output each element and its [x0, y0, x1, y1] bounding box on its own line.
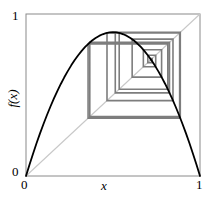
- plot-canvas: [0, 0, 209, 202]
- logistic-curve: [26, 32, 200, 176]
- x-axis-tick-label-1: 1: [196, 178, 203, 191]
- logistic-curve-group: [26, 32, 200, 176]
- cobweb-diagram-figure: 1 0 0 1 x f(x): [0, 0, 209, 202]
- y-axis-tick-label-1: 1: [12, 9, 19, 22]
- identity-line-group: [26, 14, 200, 176]
- y-axis-label: f(x): [6, 77, 19, 121]
- x-axis-tick-label-0: 0: [21, 178, 28, 191]
- y-axis-tick-label-0: 0: [12, 165, 19, 178]
- identity-line: [26, 14, 200, 176]
- x-axis-label: x: [101, 179, 107, 192]
